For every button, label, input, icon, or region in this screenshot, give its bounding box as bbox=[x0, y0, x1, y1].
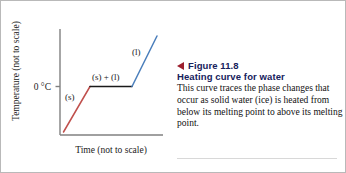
annotation-mixed-phase: (s) + (l) bbox=[92, 72, 120, 82]
chart-canvas: Temperature (not to scale) 0 °C Time (no… bbox=[1, 1, 173, 173]
caption-heading-row: Figure 11.8 bbox=[177, 61, 343, 71]
y-axis-title: Temperature (not to scale) bbox=[11, 21, 22, 121]
annotation-solid-phase: (s) bbox=[65, 92, 75, 102]
caption-body-text: This curve traces the phase changes that… bbox=[177, 83, 343, 129]
figure-number-label: Figure 11.8 bbox=[188, 61, 239, 71]
figure-container: Temperature (not to scale) 0 °C Time (no… bbox=[0, 0, 346, 173]
annotation-liquid-phase: (l) bbox=[132, 47, 141, 57]
curve-liquid-segment bbox=[132, 36, 157, 87]
figure-caption: Figure 11.8 Heating curve for water This… bbox=[177, 61, 343, 130]
heating-curve-chart: Temperature (not to scale) 0 °C Time (no… bbox=[1, 1, 173, 173]
left-triangle-icon bbox=[177, 62, 184, 70]
x-axis-title: Time (not to scale) bbox=[75, 145, 147, 156]
y-axis-tick-label-zero: 0 °C bbox=[34, 82, 51, 92]
figure-subtitle-label: Heating curve for water bbox=[177, 72, 343, 83]
caption-bottom-rule bbox=[177, 158, 337, 159]
